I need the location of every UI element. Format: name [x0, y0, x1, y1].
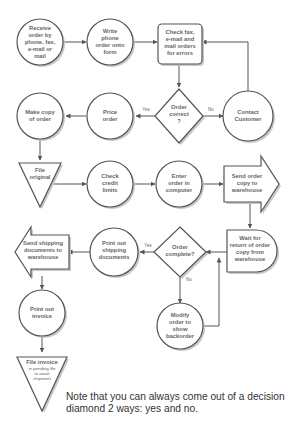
node-send-shipping: Send shipping documents to warehouse — [15, 227, 71, 279]
svg-text:return of order: return of order — [230, 242, 271, 248]
svg-text:order: order — [103, 116, 119, 122]
svg-text:Print out: Print out — [30, 306, 54, 312]
svg-text:order to: order to — [169, 319, 191, 325]
decision-order-correct: Order correct ? — [155, 89, 205, 145]
svg-text:Contact: Contact — [237, 109, 259, 115]
node-file-invoice: File invoice in pending file to await sh… — [17, 357, 69, 413]
svg-text:form: form — [104, 49, 117, 55]
diagram-note: Note that you can always come out of a d… — [66, 391, 292, 415]
node-modify-order: Modify order to show backorder — [157, 303, 205, 351]
node-price-order: Price order — [87, 93, 135, 141]
node-check-orders: Check fax, e-mail and mail orders for er… — [158, 24, 204, 66]
svg-text:shipment: shipment — [33, 376, 52, 381]
branch-label-yes: Yes — [144, 243, 152, 248]
svg-text:Write: Write — [103, 28, 118, 34]
svg-text:correct: correct — [169, 111, 189, 117]
svg-text:of order: of order — [29, 116, 52, 122]
svg-text:invoice: invoice — [32, 313, 53, 319]
svg-text:Make copy: Make copy — [25, 109, 55, 115]
svg-text:Send order: Send order — [232, 173, 263, 179]
svg-text:Modify: Modify — [171, 312, 190, 318]
svg-text:documents: documents — [99, 254, 130, 260]
svg-text:Send shipping: Send shipping — [23, 240, 63, 246]
svg-text:copy from: copy from — [236, 249, 264, 255]
svg-text:phone, fax,: phone, fax, — [25, 39, 56, 45]
svg-text:for errors: for errors — [167, 50, 193, 56]
node-enter-order: Enter order in computer — [156, 161, 204, 209]
node-receive-order: Receive order by phone, fax, e-mail or m… — [17, 19, 65, 67]
svg-text:computer: computer — [166, 187, 193, 193]
svg-text:shipping: shipping — [102, 247, 127, 253]
svg-text:complete?: complete? — [166, 251, 195, 257]
svg-text:Receive: Receive — [29, 25, 52, 31]
branch-label-no: No — [186, 277, 192, 282]
svg-text:File invoice: File invoice — [26, 359, 58, 365]
flowchart-canvas: Yes No Yes No Receive order by phone, fa… — [0, 0, 292, 437]
svg-text:Check: Check — [101, 173, 119, 179]
decision-order-complete: Order complete? — [154, 227, 208, 279]
node-wait-return: Wait for return of order copy from wareh… — [227, 230, 279, 274]
svg-text:Order: Order — [171, 104, 188, 110]
svg-text:Check fax,: Check fax, — [166, 29, 195, 35]
svg-text:copy to: copy to — [237, 180, 258, 186]
svg-text:limits: limits — [102, 187, 117, 193]
svg-text:warehouse: warehouse — [234, 256, 266, 262]
node-check-credit: Check credit limits — [87, 161, 135, 209]
node-print-shipping: Print out shipping documents — [90, 228, 140, 278]
branch-label-yes: Yes — [142, 107, 150, 112]
svg-text:Wait for: Wait for — [239, 235, 261, 241]
node-file-original: File original — [19, 163, 63, 209]
node-send-order-copy: Send order copy to warehouse — [224, 156, 281, 214]
svg-text:backorder: backorder — [166, 333, 195, 339]
node-contact-customer: Contact Customer — [223, 91, 275, 143]
svg-text:documents to: documents to — [24, 247, 62, 253]
svg-text:mail orders: mail orders — [164, 43, 195, 49]
svg-text:e-mail and: e-mail and — [166, 36, 195, 42]
svg-text:Price: Price — [103, 109, 118, 115]
svg-text:Enter: Enter — [172, 173, 188, 179]
svg-text:Print out: Print out — [102, 240, 126, 246]
svg-text:show: show — [173, 326, 188, 332]
node-make-copy: Make copy of order — [17, 93, 65, 141]
svg-text:mail: mail — [34, 53, 46, 59]
node-write-phone-order: Write phone order onto form — [87, 19, 135, 67]
svg-text:original: original — [30, 174, 51, 180]
svg-text:order by: order by — [28, 32, 52, 38]
svg-text:warehouse: warehouse — [231, 187, 263, 193]
svg-text:phone: phone — [101, 35, 119, 41]
svg-text:order in: order in — [168, 180, 190, 186]
svg-text:warehouse: warehouse — [27, 254, 59, 260]
node-print-invoice: Print out invoice — [19, 290, 67, 338]
svg-text:?: ? — [177, 118, 181, 124]
svg-text:Order: Order — [172, 244, 189, 250]
svg-text:e-mail or: e-mail or — [28, 46, 53, 52]
svg-text:order onto: order onto — [96, 42, 125, 48]
svg-text:Customer: Customer — [234, 116, 262, 122]
connectors — [40, 42, 250, 352]
svg-text:credit: credit — [102, 180, 118, 186]
branch-label-no: No — [208, 107, 214, 112]
svg-text:File: File — [35, 167, 46, 173]
